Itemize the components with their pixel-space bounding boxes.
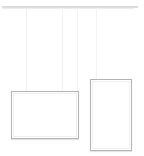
frame-portrait-right[interactable] xyxy=(90,79,132,151)
suspension-wire-1 xyxy=(26,8,27,91)
suspension-wire-4 xyxy=(96,8,97,79)
scene-canvas xyxy=(0,0,144,156)
frame-mat xyxy=(13,93,77,137)
frame-canvas xyxy=(95,84,127,146)
frame-landscape-left[interactable] xyxy=(11,91,79,139)
frame-mat xyxy=(92,81,130,149)
suspension-wire-2 xyxy=(62,8,63,91)
suspension-wire-3 xyxy=(77,8,78,91)
frame-canvas xyxy=(16,96,74,134)
hanging-rail-shadow xyxy=(2,8,134,9)
